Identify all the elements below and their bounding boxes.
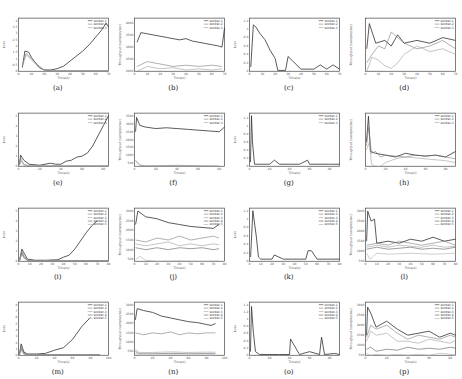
x-tick-label: 0 (364, 262, 366, 266)
y-tick-label: 8 (15, 303, 17, 307)
y-tick-label: 3000 (125, 208, 133, 212)
y-axis-label: Throughput (samples/sec) (348, 24, 352, 67)
series-line-worker-3 (366, 245, 455, 247)
legend-label: worker-3 (94, 26, 107, 30)
y-tick-label: 4 (15, 218, 17, 222)
y-tick-label: 2500 (356, 219, 364, 223)
series-line-worker-4 (366, 247, 455, 249)
legend-label: worker-5 (209, 222, 222, 226)
y-tick-label: 0.2 (244, 346, 249, 350)
x-axis-label: Time(s) (287, 266, 300, 270)
x-tick-label: 70 (453, 72, 457, 76)
x-tick-label: 70 (107, 72, 111, 76)
x-tick-label: 0 (364, 167, 366, 171)
y-tick-label: 0.4 (244, 339, 249, 343)
x-axis-label: Time(s) (172, 361, 185, 365)
line-chart-d: 010203040506070Time(s)Throughput (sample… (347, 0, 462, 85)
series-line-worker-2 (135, 160, 219, 166)
y-tick-label: 2000 (125, 69, 133, 73)
y-tick-label: 1 (246, 123, 248, 127)
x-tick-label: 30 (166, 262, 170, 266)
y-tick-label: 1.2 (244, 208, 249, 212)
series-line-worker-1 (135, 309, 215, 326)
line-chart-f: 020406080500100015002000250030003500Time… (116, 95, 232, 180)
legend-label: worker-3 (209, 120, 222, 124)
x-tick-label: 60 (80, 167, 84, 171)
panel-caption: (j) (116, 273, 232, 281)
y-axis-label: Loss (2, 230, 6, 237)
x-tick-label: 0 (364, 357, 366, 361)
line-chart-c: 01020304050607000.20.40.60.811.2Time(s)L… (231, 0, 347, 85)
y-tick-label: 1000 (356, 249, 364, 253)
y-tick-label: 2 (15, 238, 17, 242)
y-tick-label: 3000 (125, 45, 133, 49)
y-axis-label: Throughput (samples/sec) (117, 213, 121, 256)
y-tick-label: 0.2 (244, 61, 249, 65)
y-tick-label: 7 (15, 309, 17, 313)
x-tick-label: 80 (217, 167, 221, 171)
x-axis-label: Time(s) (287, 171, 300, 175)
legend-label: worker-5 (440, 222, 453, 226)
series-line-worker-2 (22, 54, 108, 71)
y-tick-label: 0.2 (244, 156, 249, 160)
y-tick-label: 500 (127, 161, 133, 165)
legend-label: worker-3 (94, 120, 107, 124)
y-tick-label: 0 (15, 259, 17, 263)
panel-caption: (g) (231, 179, 347, 187)
x-tick-label: 0 (364, 72, 366, 76)
legend-label: worker-5 (209, 317, 222, 321)
y-tick-label: 2000 (356, 229, 364, 233)
x-tick-label: 50 (427, 72, 431, 76)
x-tick-label: 0 (133, 72, 135, 76)
x-tick-label: 60 (209, 72, 213, 76)
series-line-worker-1 (251, 25, 340, 71)
x-tick-label: 20 (273, 72, 277, 76)
series-line-worker-3 (135, 241, 218, 245)
series-line-worker-4 (366, 347, 455, 351)
x-tick-label: 30 (397, 262, 401, 266)
x-tick-label: 20 (155, 262, 159, 266)
chart-panel-o: 02040608000.20.40.60.811.21.4Time(s)Loss… (231, 284, 347, 379)
line-chart-p: 02040608050010001500200025003000Time(s)T… (347, 284, 462, 369)
panel-caption: (d) (347, 84, 462, 92)
series-line-worker-4 (135, 247, 218, 249)
x-tick-label: 0 (133, 357, 135, 361)
series-line-worker-1 (22, 23, 108, 70)
legend-label: worker-5 (94, 317, 107, 321)
y-tick-label: 0.4 (244, 242, 249, 246)
x-tick-label: 0 (249, 357, 251, 361)
x-tick-label: 20 (35, 357, 39, 361)
y-tick-label: 3.5 (13, 25, 18, 29)
y-axis-label: Throughput (samples/sec) (348, 118, 352, 161)
x-tick-label: 10 (259, 262, 263, 266)
x-tick-label: 10 (145, 72, 149, 76)
chart-panel-d: 010203040506070Time(s)Throughput (sample… (347, 0, 462, 95)
y-tick-label: 4000 (125, 21, 133, 25)
y-tick-label: 2500 (125, 57, 133, 61)
y-axis-label: Loss (2, 41, 6, 48)
x-tick-label: 20 (384, 357, 388, 361)
y-tick-label: 1.4 (244, 303, 249, 307)
x-tick-label: 80 (338, 262, 342, 266)
legend-label: worker-5 (325, 317, 338, 321)
x-tick-label: 60 (308, 167, 312, 171)
x-tick-label: 0 (249, 72, 251, 76)
x-tick-label: 100 (221, 357, 227, 361)
x-tick-label: 80 (107, 262, 111, 266)
y-tick-label: 2000 (125, 322, 133, 326)
x-tick-label: 80 (448, 357, 452, 361)
y-tick-label: 0.2 (244, 250, 249, 254)
x-axis-label: Time(s) (172, 266, 185, 270)
line-chart-i: 01020304050607080012345Time(s)Lossworker… (0, 190, 116, 275)
y-tick-label: 0.6 (244, 44, 249, 48)
panel-caption: (b) (116, 84, 232, 92)
line-chart-a: 01020304050607000.511.522.533.54Time(s)L… (0, 0, 116, 85)
y-tick-label: 3 (15, 31, 17, 35)
x-tick-label: 60 (84, 262, 88, 266)
x-axis-label: Time(s) (287, 361, 300, 365)
x-tick-label: 50 (312, 72, 316, 76)
chart-panel-e: 020406080012345Time(s)Lossworker-1worker… (0, 95, 116, 190)
y-axis-label: Loss (2, 136, 6, 143)
x-tick-label: 80 (222, 262, 226, 266)
panel-caption: (f) (116, 179, 232, 187)
